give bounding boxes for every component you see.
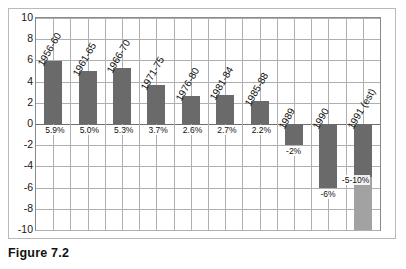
gridline-vertical — [174, 18, 175, 230]
y-axis-tick-label: -2 — [8, 138, 33, 150]
bar — [319, 124, 337, 188]
y-axis-tick-label: -4 — [8, 159, 33, 171]
y-axis-tick-label: -10 — [8, 223, 33, 235]
bar — [113, 68, 131, 124]
bar — [216, 95, 234, 124]
bar — [147, 85, 165, 124]
bar — [44, 61, 62, 124]
gridline-vertical — [208, 18, 209, 230]
bar-value-label: 2.6% — [182, 125, 203, 135]
bar — [182, 96, 200, 124]
bar-value-label: 5.0% — [79, 125, 100, 135]
bar-estimate-upper — [354, 124, 372, 177]
bar-value-label: 2.7% — [216, 125, 237, 135]
y-axis: 1086420-2-4-6-8-10 — [8, 17, 33, 231]
gridline-vertical — [156, 18, 157, 230]
gridline-vertical — [70, 18, 71, 230]
y-axis-tick-label: 6 — [8, 53, 33, 65]
bar-value-label: 3.7% — [147, 125, 168, 135]
gridline-horizontal — [36, 230, 380, 231]
bar-value-label: -2% — [285, 146, 302, 156]
figure-page: 1086420-2-4-6-8-10 1956-601961-651966-70… — [0, 0, 406, 269]
gridline-vertical — [260, 18, 261, 230]
y-axis-tick-label: -8 — [8, 202, 33, 214]
gridline-vertical — [105, 18, 106, 230]
bar-value-label: 2.2% — [251, 125, 272, 135]
gridline-vertical — [242, 18, 243, 230]
y-axis-tick-label: -6 — [8, 181, 33, 193]
gridline-vertical — [191, 18, 192, 230]
gridline-vertical — [139, 18, 140, 230]
bar-value-label: 5.9% — [44, 125, 65, 135]
bar — [79, 71, 97, 124]
figure-caption: Figure 7.2 — [8, 246, 69, 260]
y-axis-tick-label: 8 — [8, 32, 33, 44]
bar-value-label: 5.3% — [113, 125, 134, 135]
gridline-vertical — [225, 18, 226, 230]
y-axis-tick-label: 4 — [8, 75, 33, 87]
y-axis-tick-label: 10 — [8, 11, 33, 23]
y-axis-tick-label: 0 — [8, 117, 33, 129]
bar-value-label: -5-10% — [341, 175, 370, 185]
bar-value-label: -6% — [319, 189, 336, 199]
y-axis-tick-label: 2 — [8, 96, 33, 108]
